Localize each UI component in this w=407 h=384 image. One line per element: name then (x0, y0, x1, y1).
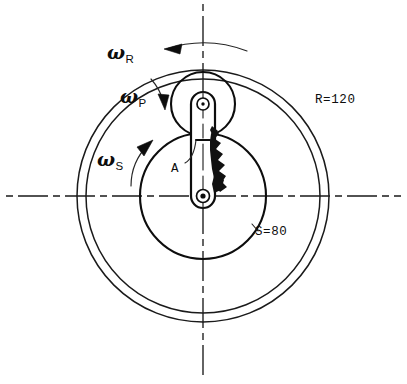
omega-sun-label: ωS (97, 150, 123, 172)
epicyclic-gear-diagram: ωR ωP ωS R=120 S=80 A (0, 0, 407, 384)
ring-radius-label: R=120 (315, 94, 356, 107)
omega-s-arrowhead (137, 140, 153, 156)
planet-pivot-dot (201, 102, 204, 105)
omega-r-arrow (164, 43, 247, 54)
omega-p-arrow (151, 79, 169, 110)
planet-pivot (197, 98, 209, 110)
omega-planet-symbol: ω (120, 85, 138, 107)
sun-radius-label: S=80 (255, 226, 287, 239)
omega-sun-subscript: S (115, 160, 123, 172)
omega-p-arrowhead (158, 94, 169, 110)
omega-ring-subscript: R (125, 53, 134, 65)
sun-pivot-dot (200, 193, 205, 198)
point-a-label: A (171, 163, 179, 176)
omega-ring-label: ωR (107, 43, 134, 65)
omega-planet-subscript: P (138, 97, 146, 109)
diagram-canvas (0, 0, 407, 384)
omega-sun-symbol: ω (97, 148, 115, 170)
sun-pivot (197, 190, 210, 203)
omega-planet-label: ωP (120, 87, 146, 109)
omega-r-arrowhead (164, 44, 182, 54)
omega-ring-symbol: ω (107, 41, 125, 63)
